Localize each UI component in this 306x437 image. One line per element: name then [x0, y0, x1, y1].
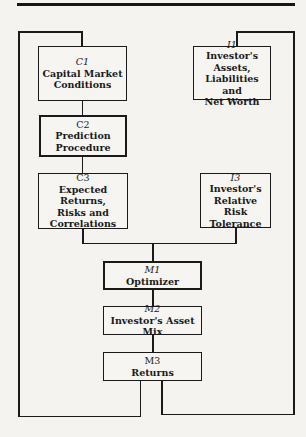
- node-code: C1: [76, 56, 89, 68]
- node-i3-risk-tolerance: I3 Investor's Relative Risk Tolerance: [200, 173, 271, 228]
- node-code: M3: [145, 355, 161, 367]
- node-label: Investor's Relative Risk Tolerance: [201, 183, 270, 229]
- node-c2-prediction-procedure: C2 Prediction Procedure: [39, 115, 127, 157]
- node-label: Investor's Assets, Liabilities and Net W…: [194, 50, 270, 108]
- node-m1-optimizer: M1 Optimizer: [103, 261, 202, 290]
- node-code: I3: [231, 172, 241, 184]
- edge-c1-c2: [82, 100, 84, 116]
- node-code: M2: [145, 303, 161, 315]
- top-rule: [17, 3, 295, 6]
- loop-right-bottom: [161, 414, 295, 416]
- loop-left-top: [18, 31, 82, 33]
- node-label: Prediction Procedure: [55, 130, 110, 153]
- loop-right-top: [236, 31, 294, 33]
- node-code: C2: [76, 119, 89, 131]
- node-label: Capital Market Conditions: [42, 68, 122, 91]
- loop-left-rise: [140, 380, 142, 417]
- node-c1-capital-market-conditions: C1 Capital Market Conditions: [38, 46, 127, 101]
- node-c3-expected-returns: C3 Expected Returns, Risks and Correlati…: [38, 173, 128, 229]
- loop-right-vertical: [293, 31, 295, 415]
- loop-left-bottom: [18, 416, 141, 418]
- loop-right-rise: [161, 380, 163, 415]
- node-code: C3: [76, 172, 89, 184]
- node-label: Optimizer: [126, 276, 179, 288]
- node-code: I1: [227, 39, 237, 51]
- edge-merge-horizontal: [82, 243, 237, 245]
- loop-left-drop: [81, 31, 83, 47]
- node-label: Expected Returns, Risks and Correlations: [39, 184, 127, 230]
- node-label: Returns: [131, 367, 174, 379]
- node-m2-asset-mix: M2 Investor's Asset Mix: [103, 306, 202, 335]
- edge-i3-down: [235, 227, 237, 244]
- edge-merge-m1: [152, 243, 154, 262]
- node-label: Investor's Asset Mix: [104, 315, 201, 338]
- node-i1-investor-assets: I1 Investor's Assets, Liabilities and Ne…: [193, 46, 271, 100]
- loop-left-vertical: [18, 31, 20, 417]
- node-code: M1: [145, 264, 161, 276]
- node-m3-returns: M3 Returns: [103, 352, 202, 381]
